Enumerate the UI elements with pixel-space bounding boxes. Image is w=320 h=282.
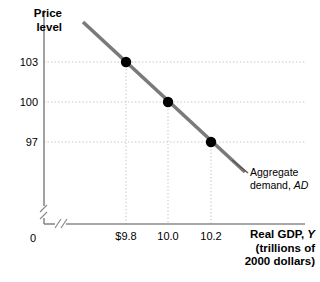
x-axis-tick-label-10-0: 10.0 bbox=[147, 230, 189, 243]
x-axis-title-line-2: (trillions of bbox=[256, 242, 315, 254]
y-axis-break-mark bbox=[40, 205, 47, 219]
curve-label-line-2: demand, bbox=[250, 179, 294, 191]
origin-label: 0 bbox=[26, 232, 40, 245]
x-axis-break-mark bbox=[55, 219, 67, 228]
y-axis-title-line-1: Price bbox=[34, 7, 62, 19]
y-axis-tick-label-97: 97 bbox=[8, 136, 38, 149]
x-axis-title: Real GDP, Y(trillions of2000 dollars) bbox=[215, 228, 315, 269]
aggregate-demand-chart: Pricelevel 103 100 97 $9.8 10.0 10.2 0 R… bbox=[0, 0, 320, 282]
y-axis-tick-label-100: 100 bbox=[8, 96, 38, 109]
curve-label-abbreviation-ad: AD bbox=[294, 179, 309, 191]
data-point-marker bbox=[121, 57, 131, 67]
x-axis-title-variable-y: Y bbox=[307, 228, 315, 240]
y-axis-title: Pricelevel bbox=[10, 7, 62, 34]
data-point-marker bbox=[163, 97, 173, 107]
curve-label-line-1: Aggregate bbox=[250, 166, 298, 178]
curve-label-leader-line bbox=[232, 160, 248, 173]
x-axis-title-line-1: Real GDP, bbox=[250, 228, 307, 240]
y-axis-title-line-2: level bbox=[36, 21, 62, 33]
aggregate-demand-curve-label: Aggregatedemand, AD bbox=[250, 166, 318, 191]
y-axis-tick-label-103: 103 bbox=[8, 56, 38, 69]
aggregate-demand-curve bbox=[83, 22, 245, 172]
x-axis-title-line-3: 2000 dollars) bbox=[245, 255, 315, 267]
x-axis-tick-label-9-8: $9.8 bbox=[104, 230, 148, 243]
data-point-marker bbox=[206, 137, 216, 147]
